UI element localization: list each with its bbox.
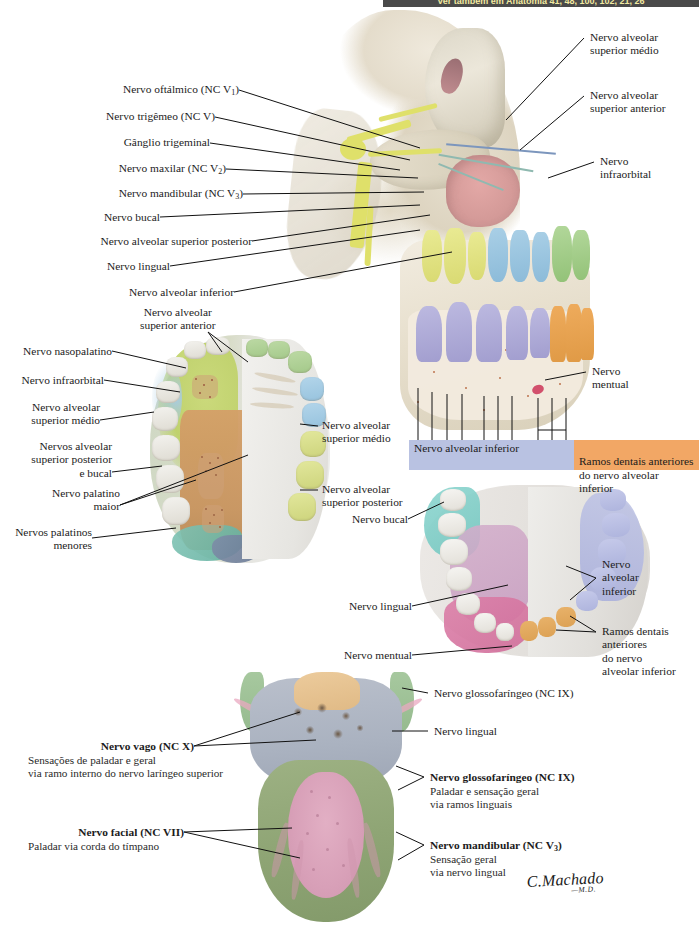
tongue-papilla (306, 832, 309, 835)
label-palate-nervos-alveolar-superior-posterior-e-bucal: Nervos alveolar superior posterior e buc… (0, 440, 112, 480)
label-palate-nervo-nasopalatino: Nervo nasopalatino (0, 345, 112, 358)
label-palate-right-nervo-alveolar-superior-medio: Nervo alveolar superior médio (322, 419, 391, 446)
palate-tooth (152, 435, 180, 461)
palate-tooth-superior-anterior (246, 339, 268, 357)
legend-label-text: Nervo alveolar inferior (414, 442, 519, 454)
label-tongue-nervo-facial-title: Nervo facial (NC VII) (0, 826, 184, 839)
tooth-superior-posterior (532, 232, 550, 282)
label-nervo-alveolar-superior-anterior-top: Nervo alveolar superior anterior (590, 89, 666, 116)
label-palate-nervo-palatino-maior: Nervo palatino maior (0, 487, 120, 514)
mandible-tooth (438, 513, 466, 537)
mandible-tooth (496, 623, 514, 641)
tooth-superior-posterior (510, 230, 530, 282)
label-mandible-nervo-bucal: Nervo bucal (300, 513, 408, 526)
palate-tooth (206, 337, 230, 355)
greater-palatine-foramen-texture (198, 453, 224, 499)
figure-palate-illustration (150, 335, 330, 565)
label-tongue-nervo-vago-title: Nervo vago (NC X) (0, 740, 194, 753)
label-tongue-nervo-glossofaringeo-title: Nervo glossofaríngeo (NC IX) (430, 771, 575, 784)
label-tongue-nervo-glossofaringeo-detail: Paladar e sensação geral via ramos lingu… (430, 785, 539, 812)
tooth-ramos-dentais-anteriores (550, 306, 566, 362)
cross-reference-text: Ver também em Anatomia 41, 48, 100, 102,… (383, 0, 699, 6)
tongue-papilla (316, 814, 319, 817)
label-tongue-nervo-glossofaringeo-simple: Nervo glossofaríngeo (NC IX) (434, 687, 574, 700)
tooth-superior-anterior (572, 230, 590, 280)
label-mandible-nervo-mentual: Nervo mentual (300, 649, 412, 662)
label-tongue-nervo-mandibular-detail: Sensação geral via nervo lingual (430, 853, 506, 880)
tongue-papilla (342, 864, 345, 867)
tooth-ramos-dentais-anteriores (580, 308, 594, 360)
anatomy-plate: Ver também em Anatomia 41, 48, 100, 102,… (0, 0, 699, 938)
label-nervo-bucal: Nervo bucal (0, 211, 160, 224)
mandible-tooth-alveolar-inferior (576, 591, 598, 611)
mandible-tooth (446, 567, 472, 591)
palate-tooth (162, 497, 190, 525)
legend-ramos-dentais-anteriores: Ramos dentais anteriores do nervo alveol… (574, 440, 699, 470)
label-palate-nervo-alveolar-superior-anterior: Nervo alveolar superior anterior (140, 306, 216, 333)
mandible-tooth-ramos-anteriores (556, 607, 576, 627)
tooth-superior-medio (444, 228, 466, 284)
trigeminal-ganglion-shape (340, 138, 366, 160)
tongue-papilla (326, 848, 329, 851)
mandible-tooth (474, 613, 496, 633)
label-tongue-nervo-mandibular-title: Nervo mandibular (NC V3) (430, 839, 562, 853)
label-ganglio-trigeminal: Gânglio trigeminal (0, 136, 210, 149)
palate-tooth (156, 381, 180, 403)
label-nervo-trigemeo: Nervo trigêmeo (NC V) (0, 110, 215, 123)
label-palate-nervos-palatinos-menores: Nervos palatinos menores (0, 526, 92, 553)
label-tongue-nervo-vago-detail: Sensações de paladar e geral via ramo in… (28, 754, 223, 781)
mandible-tooth (440, 539, 468, 565)
mandible-tooth-ramos-anteriores (538, 617, 556, 637)
palate-tooth (184, 341, 206, 359)
cross-reference-banner: Ver também em Anatomia 41, 48, 100, 102,… (383, 0, 699, 7)
label-tongue-nervo-lingual-simple: Nervo lingual (434, 725, 497, 738)
label-nervo-oftalmico: Nervo oftálmico (NC V1) (0, 83, 239, 97)
tooth-superior-anterior (552, 226, 572, 282)
label-nervo-mentual-top: Nervo mentual (592, 365, 629, 392)
tooth-alveolar-inferior (446, 302, 472, 362)
mandible-tooth (456, 593, 480, 615)
label-nervo-lingual: Nervo lingual (0, 260, 170, 273)
label-nervo-infraorbital-top: Nervo infraorbital (600, 155, 651, 182)
label-tongue-nervo-facial-detail: Paladar via corda do tímpano (28, 840, 159, 853)
palate-tooth-superior-anterior (268, 341, 290, 359)
label-palate-nervo-infraorbital: Nervo infraorbital (0, 374, 104, 387)
label-nervo-maxilar: Nervo maxilar (NC V2) (0, 162, 226, 176)
mandible-tooth-alveolar-inferior (602, 513, 630, 537)
artist-signature: C.Machado —M.D. (526, 869, 604, 897)
tooth-alveolar-inferior (416, 306, 442, 362)
palate-tooth-superior-posterior (296, 461, 324, 489)
lesser-palatine-foramen-texture (202, 505, 224, 533)
tooth-alveolar-inferior (476, 304, 502, 362)
palate-tooth-superior-anterior (288, 351, 312, 373)
lingual-tonsil-shape (282, 698, 372, 748)
label-palate-nervo-alveolar-superior-medio: Nervo alveolar superior médio (0, 401, 100, 428)
nasopalatine-foramen-texture (192, 375, 218, 399)
palate-tooth (152, 407, 178, 431)
palate-tooth (156, 465, 184, 493)
tongue-papilla (336, 822, 339, 825)
label-nervo-alveolar-superior-posterior: Nervo alveolar superior posterior (0, 235, 252, 248)
figure-tongue-illustration (232, 672, 422, 924)
tooth-alveolar-inferior (506, 306, 528, 360)
tongue-papilla (310, 790, 313, 793)
tongue-papilla (328, 796, 331, 799)
label-nervo-alveolar-superior-medio-top: Nervo alveolar superior médio (590, 31, 659, 58)
tooth-superior-medio (422, 230, 442, 282)
legend-nervo-alveolar-inferior: Nervo alveolar inferior (409, 440, 574, 470)
tongue-papilla (312, 868, 315, 871)
mandible-tooth-ramos-anteriores (520, 621, 538, 641)
tooth-superior-posterior (488, 228, 508, 282)
label-mandible-ramos-dentais-anteriores: Ramos dentais anteriores do nervo alveol… (602, 625, 676, 678)
label-palate-right-nervo-alveolar-superior-posterior: Nervo alveolar superior posterior (322, 483, 403, 510)
label-nervo-mandibular: Nervo mandibular (NC V3) (0, 187, 243, 201)
label-mandible-nervo-lingual: Nervo lingual (300, 600, 412, 613)
label-nervo-alveolar-inferior: Nervo alveolar inferior (0, 286, 234, 299)
tooth-alveolar-inferior (530, 308, 550, 358)
palate-tooth-superior-medio (300, 377, 324, 401)
palate-tooth (166, 357, 188, 377)
tooth-superior-medio (468, 232, 486, 280)
label-mandible-nervo-alveolar-inferior: Nervo alveolar inferior (602, 558, 639, 598)
mandible-tooth (440, 489, 466, 511)
